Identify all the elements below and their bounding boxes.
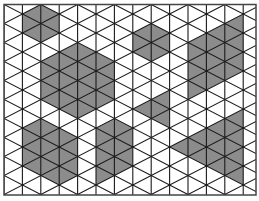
triangular-grid-diagram (0, 0, 259, 201)
